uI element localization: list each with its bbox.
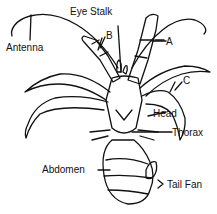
carapace <box>106 76 142 133</box>
label-antenna: Antenna <box>6 42 43 53</box>
label-abdomen: Abdomen <box>42 164 85 175</box>
label-a: A <box>166 36 173 47</box>
label-b: B <box>106 30 113 41</box>
label-eye-stalk: Eye Stalk <box>70 6 112 17</box>
label-tail-fan: Tail Fan <box>167 179 202 190</box>
label-head: Head <box>153 108 177 119</box>
label-thorax: Thorax <box>172 127 203 138</box>
label-c: C <box>183 75 190 86</box>
